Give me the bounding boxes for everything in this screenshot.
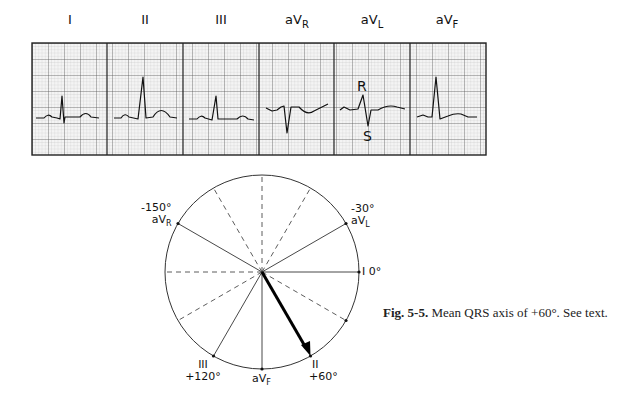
label-sub: R [166,219,172,228]
axis-avr [178,224,262,273]
figure-canvas [0,0,635,397]
label-text: aV [252,372,266,385]
axis-lead-iii [214,272,263,356]
label-lead-i: I 0° [362,266,381,278]
label-text: aV [351,214,365,227]
ecg-strip [32,43,486,155]
label-avl: -30° aVL [351,203,374,231]
label-sub: L [365,220,369,229]
label-sub: F [266,378,271,387]
label-lead-iii: III +120° [182,359,224,383]
label-deg: +120° [182,371,224,383]
r-wave-label: R [357,80,367,92]
label-lead-ii: II +60° [309,359,338,383]
label-deg: 0° [369,265,382,278]
label-avr: -150° aVR [141,202,171,230]
hexaxial-diagram [165,175,361,371]
s-wave-label: S [363,130,372,142]
label-text: I [362,265,365,278]
label-avf: aVF [252,373,271,389]
label-deg: +60° [309,371,338,383]
caption-text: Mean QRS axis of +60°. See text. [431,305,607,320]
figure-caption: Fig. 5-5. Mean QRS axis of +60°. See tex… [383,305,608,321]
label-avl-name: aVL [351,215,374,231]
label-avr-name: aVR [141,214,171,230]
mean-qrs-vector-arrow [262,272,311,356]
label-text: aV [152,213,166,226]
axis-avl [262,224,346,273]
caption-fig-label: Fig. 5-5. [383,305,428,320]
